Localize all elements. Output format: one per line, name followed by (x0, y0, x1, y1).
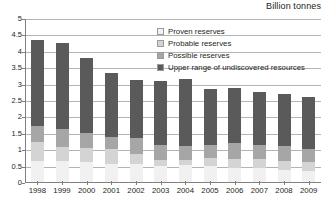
bar-segment-1[interactable] (56, 147, 69, 161)
bar-segment-1[interactable] (302, 162, 315, 171)
bar-segment-3[interactable] (105, 73, 118, 137)
x-tick-label: 1998 (29, 185, 46, 197)
bar-segment-3[interactable] (130, 80, 143, 138)
bar-segment-3[interactable] (154, 81, 167, 145)
x-tick-label: 2007 (251, 185, 268, 197)
bar-stack[interactable] (179, 79, 192, 183)
legend-item[interactable]: Possible reserves (157, 50, 305, 61)
legend-item[interactable]: Probable reserves (157, 38, 305, 49)
bar-segment-1[interactable] (130, 154, 143, 165)
bar-stack[interactable] (228, 88, 241, 183)
bar-segment-2[interactable] (80, 133, 93, 148)
y-tick-label: 4.5 (12, 32, 22, 40)
bar-segment-2[interactable] (253, 145, 266, 159)
x-tick-label: 2008 (275, 185, 292, 197)
bar-stack[interactable] (130, 80, 143, 183)
bar-segment-1[interactable] (278, 161, 291, 170)
y-tick-label: 1.5 (12, 130, 22, 138)
y-axis-line (25, 19, 26, 183)
bar-segment-1[interactable] (80, 148, 93, 162)
x-tick-label: 2006 (226, 185, 243, 197)
bar-stack[interactable] (56, 43, 69, 183)
bar-segment-2[interactable] (154, 145, 167, 160)
bar-segment-3[interactable] (302, 97, 315, 148)
bar-segment-0[interactable] (80, 162, 93, 183)
x-tick-label: 2003 (152, 185, 169, 197)
legend-swatch-icon (157, 28, 164, 35)
legend-swatch-icon (157, 64, 164, 71)
bar-stack[interactable] (204, 89, 217, 183)
y-tick-mark (22, 183, 25, 184)
bar-segment-1[interactable] (228, 159, 241, 168)
x-tick-label: 2002 (127, 185, 144, 197)
x-axis-labels: 1998199920002001200220032004200520062007… (25, 185, 321, 199)
x-axis-line (25, 182, 321, 183)
bar-segment-1[interactable] (31, 142, 44, 161)
y-tick-label: 5 (18, 15, 22, 23)
bar-segment-3[interactable] (204, 89, 217, 145)
bar-segment-2[interactable] (278, 146, 291, 160)
bar-segment-2[interactable] (228, 143, 241, 159)
x-tick-label: 2009 (300, 185, 317, 197)
bar-segment-2[interactable] (302, 149, 315, 162)
chart-legend: Proven reservesProbable reservesPossible… (157, 26, 305, 73)
x-tick-label: 2005 (201, 185, 218, 197)
bar-segment-3[interactable] (56, 43, 69, 129)
bar-segment-3[interactable] (253, 92, 266, 145)
legend-label: Probable reserves (168, 39, 231, 48)
chart-title: Billion tonnes (266, 1, 321, 11)
legend-item[interactable]: Proven reserves (157, 26, 305, 37)
chart-container: Billion tonnes 00.511.522.533.544.55 199… (0, 0, 327, 214)
bar-segment-0[interactable] (56, 161, 69, 183)
bar-segment-0[interactable] (31, 161, 44, 183)
bar-segment-2[interactable] (204, 145, 217, 158)
bar-segment-3[interactable] (179, 79, 192, 146)
y-tick-label: 4 (18, 48, 22, 56)
bar-stack[interactable] (105, 73, 118, 184)
y-tick-label: 1 (18, 146, 22, 154)
x-tick-label: 2004 (177, 185, 194, 197)
bar-segment-3[interactable] (31, 40, 44, 125)
x-tick-label: 2001 (103, 185, 120, 197)
y-tick-label: 0 (18, 179, 22, 187)
bar-segment-2[interactable] (105, 137, 118, 149)
bar-stack[interactable] (253, 92, 266, 183)
bar-segment-3[interactable] (228, 88, 241, 143)
bar-segment-2[interactable] (130, 138, 143, 153)
bar-stack[interactable] (302, 97, 315, 183)
y-tick-label: 2.5 (12, 97, 22, 105)
y-tick-label: 3 (18, 81, 22, 89)
bar-stack[interactable] (154, 81, 167, 183)
legend-item[interactable]: Upper range of undiscovered resources (157, 62, 305, 73)
legend-label: Upper range of undiscovered resources (168, 63, 305, 72)
bar-segment-1[interactable] (253, 159, 266, 169)
bar-segment-2[interactable] (31, 126, 44, 142)
y-tick-label: 0.5 (12, 163, 22, 171)
y-tick-label: 2 (18, 114, 22, 122)
bar-segment-2[interactable] (179, 146, 192, 160)
x-tick-label: 1999 (53, 185, 70, 197)
x-tick-label: 2000 (78, 185, 95, 197)
legend-swatch-icon (157, 40, 164, 47)
bar-stack[interactable] (31, 40, 44, 183)
bar-segment-3[interactable] (278, 94, 291, 146)
legend-swatch-icon (157, 52, 164, 59)
legend-label: Possible reserves (168, 51, 230, 60)
bar-stack[interactable] (80, 58, 93, 183)
legend-label: Proven reserves (168, 27, 225, 36)
bar-segment-1[interactable] (105, 149, 118, 164)
bar-stack[interactable] (278, 94, 291, 183)
bar-segment-1[interactable] (204, 158, 217, 166)
bar-segment-3[interactable] (80, 58, 93, 132)
bar-segment-2[interactable] (56, 129, 69, 147)
y-tick-label: 3.5 (12, 64, 22, 72)
